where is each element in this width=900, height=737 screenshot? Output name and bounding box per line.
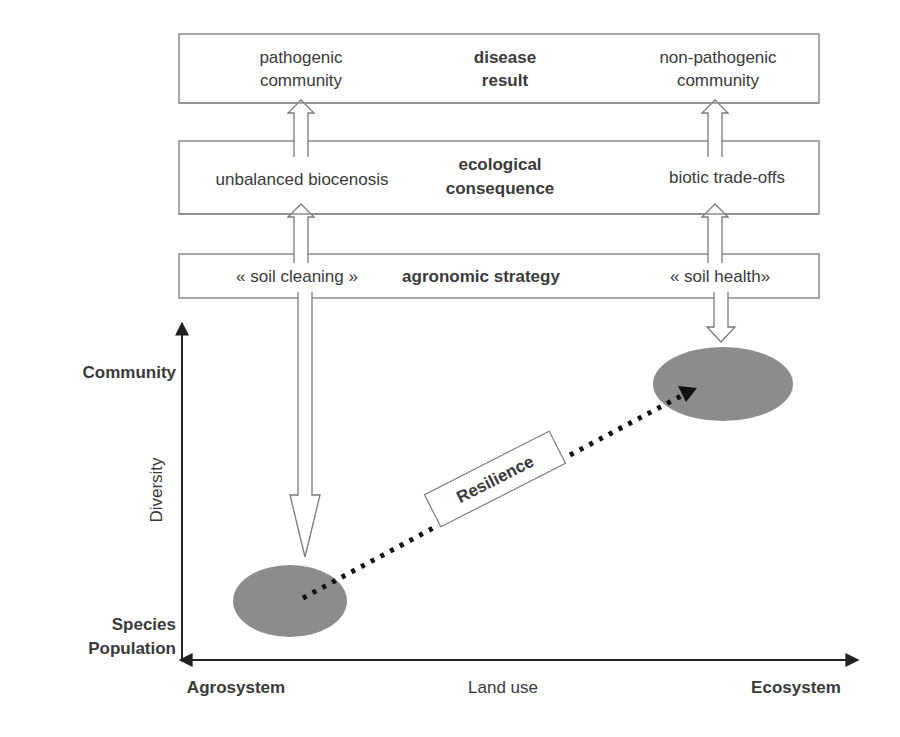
x-axis-right-label: Ecosystem — [751, 678, 841, 697]
strategy-right: « soil health» — [670, 267, 770, 286]
x-axis-title: Land use — [468, 678, 538, 697]
result-center-line2: result — [482, 71, 529, 90]
y-axis-bottom-label-1: Species — [112, 615, 176, 634]
y-axis-top-label: Community — [83, 363, 177, 382]
result-left-line1: pathogenic — [259, 48, 343, 67]
result-left-line2: community — [260, 71, 343, 90]
strategy-left: « soil cleaning » — [236, 267, 358, 286]
x-axis-left-label: Agrosystem — [187, 678, 285, 697]
y-axis-bottom-label-2: Population — [88, 639, 176, 658]
ecosystem-ellipse — [653, 347, 793, 421]
y-axis-title: Diversity — [147, 457, 166, 523]
result-row-box — [179, 34, 819, 103]
agrosystem-ellipse — [233, 565, 347, 637]
result-right-line1: non-pathogenic — [659, 48, 777, 67]
resilience-path-lower — [303, 526, 437, 598]
strategy-center: agronomic strategy — [402, 267, 560, 286]
result-center-line1: disease — [474, 48, 536, 67]
consequence-right: biotic trade-offs — [669, 168, 785, 187]
resilience-label-box: Resilience — [424, 431, 565, 527]
consequence-center-line2: consequence — [446, 179, 555, 198]
consequence-center-line1: ecological — [458, 155, 541, 174]
hollow-down-arrow-icon — [707, 292, 735, 342]
hollow-down-arrow-icon — [290, 292, 320, 557]
soil-ecology-diagram: Resilience pathogenic community disease … — [0, 0, 900, 737]
result-right-line2: community — [677, 71, 760, 90]
consequence-left: unbalanced biocenosis — [216, 170, 389, 189]
